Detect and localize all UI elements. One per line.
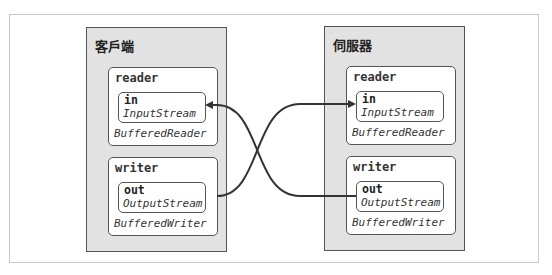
- arrow-server-out-to-client-in: [207, 105, 356, 196]
- connection-arrows: [0, 0, 552, 275]
- arrow-client-out-to-server-in: [217, 104, 354, 196]
